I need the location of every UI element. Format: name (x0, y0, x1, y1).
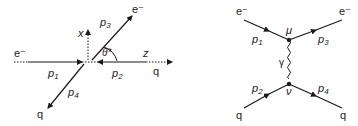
label-z-axis: z (142, 47, 149, 59)
label-p4: p4 (317, 82, 329, 96)
vertex-top (287, 38, 291, 42)
label-mu: μ (285, 24, 292, 36)
label-theta: θ* (102, 47, 112, 58)
quark-in-arrow (244, 94, 269, 108)
label-x-axis: x (77, 27, 84, 39)
label-quark-out: q (340, 109, 346, 121)
quark-out-arrow (289, 84, 316, 96)
kinematics-diagram: e⁻ e⁻ q q x z θ* p1 p2 p3 p4 (14, 3, 172, 120)
label-p3: p3 (317, 33, 329, 47)
label-electron-out: e⁻ (339, 5, 351, 17)
label-p2: p2 (111, 67, 123, 81)
label-nu: ν (286, 85, 292, 97)
photon-propagator (288, 40, 291, 79)
label-quark-out: q (37, 108, 43, 120)
label-p1: p1 (251, 33, 263, 47)
electron-out-line (316, 20, 342, 30)
label-p4: p4 (67, 86, 79, 100)
label-gamma: γ (279, 57, 284, 68)
label-quark-in: q (236, 109, 242, 121)
label-p2: p2 (251, 82, 263, 96)
label-quark-in: q (153, 65, 159, 77)
electron-out-arrow (289, 30, 316, 40)
label-electron-out: e⁻ (132, 3, 144, 15)
feynman-diagram: e⁻ e⁻ q q μ ν γ p1 p2 p3 p4 (236, 5, 351, 121)
label-electron-in: e⁻ (14, 47, 26, 59)
p3-arrow (92, 16, 132, 60)
label-p1: p1 (47, 67, 59, 81)
quark-out-line (316, 96, 342, 108)
label-p3: p3 (99, 16, 111, 30)
label-electron-in: e⁻ (236, 5, 248, 17)
diagram-canvas: e⁻ e⁻ q q x z θ* p1 p2 p3 p4 e⁻ e⁻ q q μ… (0, 0, 358, 126)
electron-in-arrow (244, 20, 269, 31)
